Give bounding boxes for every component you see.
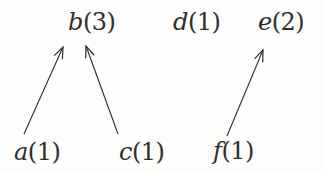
reference-diagram: b(3) d(1) e(2) a(1) c(1) f(1) xyxy=(0,0,323,173)
node-e-letter: e xyxy=(258,8,272,36)
node-b-letter: b xyxy=(68,8,83,36)
node-a-letter: a xyxy=(14,138,28,166)
node-d-count: (1) xyxy=(188,8,221,36)
node-d-letter: d xyxy=(173,8,188,36)
node-d: d(1) xyxy=(173,10,220,34)
node-c-count: (1) xyxy=(132,138,165,166)
node-a-count: (1) xyxy=(28,138,61,166)
node-a: a(1) xyxy=(14,140,60,164)
node-e-count: (2) xyxy=(272,8,305,36)
node-b: b(3) xyxy=(68,10,115,34)
node-e: e(2) xyxy=(258,10,304,34)
node-c-letter: c xyxy=(119,138,132,166)
edge-c-to-b-arrow xyxy=(86,46,118,134)
edge-a-to-b-arrow xyxy=(24,47,63,134)
edge-f-to-e-arrow xyxy=(227,50,263,136)
node-b-count: (3) xyxy=(83,8,116,36)
node-c: c(1) xyxy=(119,140,164,164)
node-f-count: (1) xyxy=(221,137,254,165)
node-f: f(1) xyxy=(213,139,254,163)
